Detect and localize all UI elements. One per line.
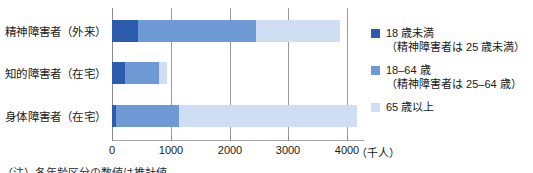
legend-label-18-64: 18–64 歳 （精神障害者は 25–64 歳） xyxy=(386,63,522,91)
legend-item-u18[interactable]: 18 歳未満 （精神障害者は 25 歳未満） xyxy=(371,26,533,54)
bar-segment-65 xyxy=(159,62,167,84)
bar-series-2 xyxy=(112,105,357,127)
legend-item-65[interactable]: 65 歳以上 xyxy=(371,100,533,114)
x-tick-4000 xyxy=(347,136,348,141)
legend-label-main: 18 歳未満 xyxy=(386,27,434,39)
footnote: （注）各年齢区分の数値は推計値 xyxy=(2,164,167,173)
legend-swatch-icon xyxy=(371,103,380,112)
bar-segment-65 xyxy=(179,105,357,127)
legend-swatch-icon xyxy=(371,29,380,38)
bar-series-0 xyxy=(112,20,340,42)
plot-area xyxy=(112,8,347,140)
category-label-0: 精神障害者（外来） xyxy=(0,23,106,39)
x-axis-unit-label: （千人） xyxy=(356,144,400,160)
category-label-2: 身体障害者（在宅） xyxy=(0,108,106,124)
x-tick-1000 xyxy=(171,136,172,141)
legend-label-main: 18–64 歳 xyxy=(386,64,431,76)
x-tick-label-3000: 3000 xyxy=(276,144,300,156)
x-tick-label-2000: 2000 xyxy=(218,144,242,156)
x-tick-2000 xyxy=(230,136,231,141)
legend-label-sub: （精神障害者は 25–64 歳） xyxy=(386,77,522,91)
bar-segment-18-64 xyxy=(125,62,159,84)
legend-swatch-icon xyxy=(371,66,380,75)
legend-label-u18: 18 歳未満 （精神障害者は 25 歳未満） xyxy=(386,26,525,54)
legend-label-main: 65 歳以上 xyxy=(386,101,434,113)
bar-segment-u18 xyxy=(112,62,125,84)
legend-label-65: 65 歳以上 xyxy=(386,100,434,114)
x-tick-3000 xyxy=(288,136,289,141)
legend-label-sub: （精神障害者は 25 歳未満） xyxy=(386,40,525,54)
bar-segment-65 xyxy=(256,20,340,42)
stacked-bar-chart: 精神障害者（外来） 知的障害者（在宅） 身体障害者（在宅） 0 xyxy=(0,0,533,173)
x-tick-0 xyxy=(112,136,113,141)
bar-segment-18-64 xyxy=(116,105,179,127)
legend: 18 歳未満 （精神障害者は 25 歳未満） 18–64 歳 （精神障害者は 2… xyxy=(371,26,533,123)
x-tick-label-1000: 1000 xyxy=(159,144,183,156)
x-axis-line xyxy=(112,140,364,141)
legend-item-18-64[interactable]: 18–64 歳 （精神障害者は 25–64 歳） xyxy=(371,63,533,91)
bar-segment-18-64 xyxy=(138,20,256,42)
x-tick-label-0: 0 xyxy=(109,144,115,156)
bar-series-1 xyxy=(112,62,167,84)
category-label-1: 知的障害者（在宅） xyxy=(0,65,106,81)
bar-segment-u18 xyxy=(112,20,138,42)
category-axis: 精神障害者（外来） 知的障害者（在宅） 身体障害者（在宅） xyxy=(0,0,106,140)
